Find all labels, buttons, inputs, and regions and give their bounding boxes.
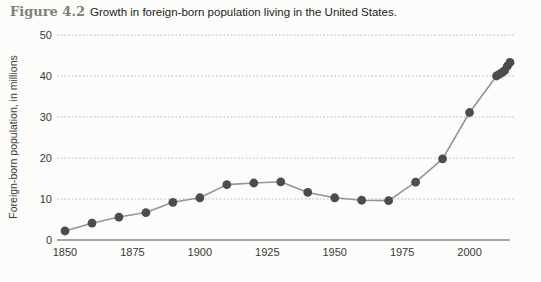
data-point	[357, 196, 366, 205]
data-point	[330, 193, 339, 202]
data-point	[438, 154, 447, 163]
x-tick-label: 1925	[255, 246, 279, 258]
data-point	[115, 213, 124, 222]
data-point	[222, 180, 231, 189]
y-tick-label: 50	[40, 29, 52, 41]
x-tick-label: 1850	[53, 246, 77, 258]
y-axis-title: Foreign-born population, in millions	[7, 55, 19, 218]
x-tick-label: 1875	[120, 246, 144, 258]
data-point	[168, 198, 177, 207]
y-tick-label: 40	[40, 70, 52, 82]
data-point	[88, 219, 97, 228]
x-tick-label: 1975	[390, 246, 414, 258]
y-tick-label: 20	[40, 152, 52, 164]
data-point	[276, 177, 285, 186]
x-tick-label: 1900	[188, 246, 212, 258]
data-point	[303, 188, 312, 197]
data-point	[142, 208, 151, 217]
data-point	[506, 58, 515, 67]
data-point	[195, 193, 204, 202]
data-point	[465, 108, 474, 117]
trend-line	[65, 62, 510, 231]
data-point	[411, 178, 420, 187]
data-point	[384, 196, 393, 205]
y-tick-label: 30	[40, 111, 52, 123]
y-tick-label: 0	[46, 234, 52, 246]
line-chart: 010203040501850187519001925195019752000F…	[0, 0, 541, 282]
x-tick-label: 2000	[457, 246, 481, 258]
x-tick-label: 1950	[322, 246, 346, 258]
data-point	[61, 227, 70, 236]
data-point	[249, 179, 258, 188]
y-tick-label: 10	[40, 193, 52, 205]
